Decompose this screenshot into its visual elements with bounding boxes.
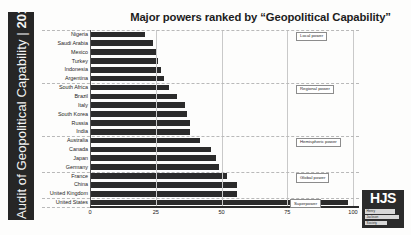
gridline — [90, 30, 91, 207]
hjs-logo-line-text: Jackson — [365, 215, 378, 220]
bar — [90, 120, 190, 126]
category-label: Saudi Arabia — [42, 39, 88, 48]
category-label: China — [42, 180, 88, 189]
vertical-banner: Audit of Geopolitical Capability | 2019 — [8, 12, 34, 220]
category-label: Russia — [42, 119, 88, 128]
hjs-logo-line: Henry — [365, 209, 395, 214]
hjs-logo-line-text: Society — [365, 221, 377, 226]
category-label: South Korea — [42, 110, 88, 119]
bar — [90, 111, 187, 117]
category-label: Japan — [42, 154, 88, 163]
chart-title: Major powers ranked by “Geopolitical Cap… — [118, 11, 403, 23]
x-tick-label: 50 — [218, 209, 224, 215]
bar — [90, 102, 185, 108]
bar — [90, 155, 216, 161]
x-tick-label: 0 — [88, 209, 91, 215]
tier-callout: Hemispheric power — [296, 138, 341, 147]
plot-area: NigeriaSaudi ArabiaMexicoTurkeyIndonesia… — [42, 30, 359, 207]
bar — [90, 138, 200, 144]
category-label: Indonesia — [42, 65, 88, 74]
category-label: South Africa — [42, 83, 88, 92]
hjs-wordmark: HJS — [362, 191, 404, 206]
vertical-banner-label: Audit of Geopolitical Capability | 2019 — [14, 13, 29, 219]
hjs-logo-line: Society — [365, 221, 387, 226]
bar — [90, 76, 164, 82]
category-label: Argentina — [42, 74, 88, 83]
tier-callout: Global power — [296, 173, 329, 182]
tier-callout: Regional power — [296, 85, 334, 94]
bar — [90, 164, 219, 170]
tier-callout: Local power — [296, 32, 327, 41]
gridline — [222, 30, 223, 207]
hjs-logo-lines: Henry Jackson Society — [365, 209, 401, 227]
banner-prefix: Audit of Geopolitical Capability | — [14, 29, 29, 219]
bar — [90, 94, 177, 100]
category-label: India — [42, 127, 88, 136]
bar — [90, 32, 145, 38]
banner-year: 2019 — [14, 12, 29, 29]
gridline — [156, 30, 157, 207]
bar — [90, 58, 158, 64]
category-label: Nigeria — [42, 30, 88, 39]
bar — [90, 191, 237, 197]
x-tick-label: 100 — [348, 209, 357, 215]
tier-callout: Superpower — [290, 199, 321, 208]
category-label: Italy — [42, 101, 88, 110]
x-tick-label: 25 — [153, 209, 159, 215]
gridline — [353, 30, 354, 207]
hjs-logo: HJS Henry Jackson Society — [362, 190, 404, 228]
category-label: Germany — [42, 163, 88, 172]
bar — [90, 147, 211, 153]
bar — [90, 173, 227, 179]
hjs-logo-line: Jackson — [365, 215, 399, 220]
x-axis-tick-labels: 0255075100 — [42, 209, 359, 221]
category-label: United States — [42, 198, 88, 207]
category-label: Mexico — [42, 48, 88, 57]
chart-slide: Audit of Geopolitical Capability | 2019 … — [0, 0, 411, 235]
bar — [90, 182, 237, 188]
bar — [90, 49, 156, 55]
category-label: Brazil — [42, 92, 88, 101]
gridline — [287, 30, 288, 207]
category-label: United Kingdom — [42, 189, 88, 198]
category-label: Australia — [42, 136, 88, 145]
bar — [90, 67, 161, 73]
x-tick-label: 75 — [284, 209, 290, 215]
category-label: Turkey — [42, 57, 88, 66]
bar — [90, 40, 153, 46]
bar — [90, 129, 190, 135]
bar — [90, 85, 169, 91]
category-label: Canada — [42, 145, 88, 154]
category-label: France — [42, 172, 88, 181]
hjs-logo-line-text: Henry — [365, 209, 375, 214]
